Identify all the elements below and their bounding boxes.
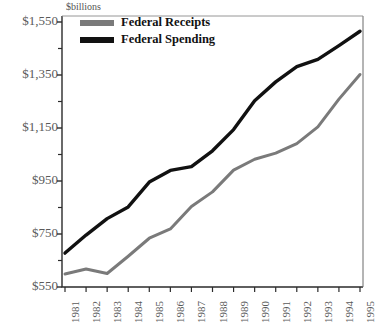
series-line-federal-spending	[65, 31, 360, 253]
legend-label-federal-spending: Federal Spending	[121, 32, 215, 47]
x-axis-tick-label: 1995	[364, 301, 376, 323]
x-axis-tick-label: 1984	[132, 301, 144, 323]
x-axis-tick-label: 1983	[111, 301, 123, 323]
x-axis-tick-label: 1989	[238, 301, 250, 323]
legend-label-federal-receipts: Federal Receipts	[121, 15, 210, 30]
x-axis-tick-label: 1994	[343, 301, 355, 323]
chart-legend: Federal Receipts Federal Spending	[80, 15, 215, 47]
legend-item-federal-spending: Federal Spending	[80, 32, 215, 47]
x-axis-tick-label: 1993	[322, 301, 334, 323]
legend-swatch-federal-spending	[80, 37, 114, 43]
x-axis-tick-label: 1985	[153, 301, 165, 323]
x-axis-tick-label: 1990	[259, 301, 271, 323]
x-axis-tick-label: 1992	[301, 301, 313, 323]
x-axis-tick-label: 1981	[69, 301, 81, 323]
x-axis-tick-label: 1986	[174, 301, 186, 323]
legend-item-federal-receipts: Federal Receipts	[80, 15, 215, 30]
x-axis-tick-label: 1982	[90, 301, 102, 323]
x-axis-tick-label: 1991	[280, 301, 292, 323]
x-axis-tick-label: 1987	[195, 301, 207, 323]
series-line-federal-receipts	[65, 74, 360, 274]
series-layer	[65, 31, 360, 274]
legend-swatch-federal-receipts	[80, 20, 114, 26]
x-axis-tick-label: 1988	[217, 301, 229, 323]
